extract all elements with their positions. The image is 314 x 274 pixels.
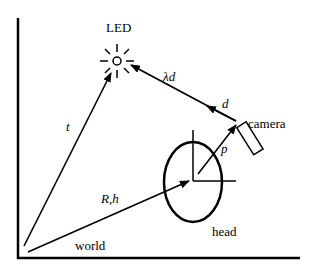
p-label: p: [220, 141, 228, 156]
lambda-d-label: λd: [162, 69, 176, 84]
d-label: d: [222, 96, 229, 111]
t-label: t: [66, 119, 70, 134]
world-label: world: [75, 238, 106, 253]
head-label: head: [212, 224, 237, 239]
led-label: LED: [106, 20, 131, 35]
head-tracking-diagram: LED t λd d camera p R,h head world: [0, 0, 314, 274]
camera-label: camera: [248, 116, 286, 131]
world-axes: [17, 18, 300, 259]
vector-t: [24, 73, 111, 246]
led-icon: [100, 44, 134, 78]
vector-p: [198, 125, 236, 174]
rh-label: R,h: [100, 191, 119, 206]
